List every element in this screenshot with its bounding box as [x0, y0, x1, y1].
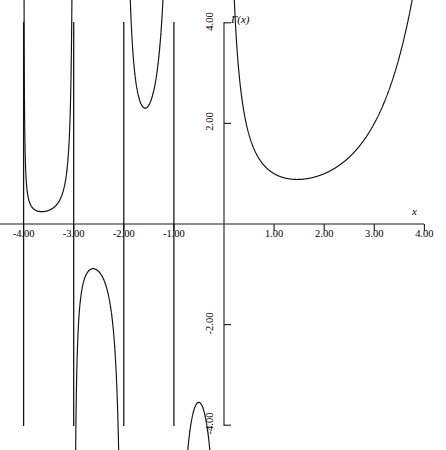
- x-axis-title: x: [412, 205, 417, 217]
- branch-neg3-neg2: [75, 269, 121, 450]
- x-tick-label-4: 1.00: [258, 228, 290, 239]
- y-tick-label-2: 4.00: [204, 5, 215, 37]
- x-tick-label-7: 4.00: [408, 228, 440, 239]
- x-tick-label-0: -4.00: [8, 228, 40, 239]
- branch-neg4-neg3: [24, 0, 73, 212]
- x-tick-label-6: 3.00: [358, 228, 390, 239]
- axes-group: [0, 22, 424, 426]
- y-tick-label-3: 2.00: [204, 106, 215, 138]
- x-tick-label-1: -3.00: [58, 228, 90, 239]
- y-axis-ticks: [224, 0, 231, 450]
- y-tick-label-5: -4.00: [204, 408, 215, 440]
- x-tick-label-2: -2.00: [108, 228, 140, 239]
- branch-positive: [230, 0, 424, 179]
- y-axis-title: Γ(x): [231, 13, 249, 25]
- gamma-function-plot: -4.00-3.00-2.00-1.001.002.003.004.00 8.0…: [0, 0, 446, 450]
- plot-canvas: [0, 0, 446, 450]
- branch-neg2-neg1: [127, 0, 168, 108]
- x-tick-label-5: 2.00: [308, 228, 340, 239]
- y-tick-label-4: -2.00: [204, 307, 215, 339]
- x-tick-label-3: -1.00: [158, 228, 190, 239]
